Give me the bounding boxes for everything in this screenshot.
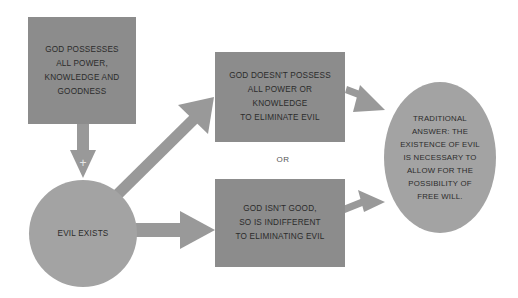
option-good-label: GOD ISN'T GOOD, SO IS INDIFFERENT TO ELI… [235, 202, 324, 244]
plus-icon: + [79, 156, 86, 170]
arrow-option-good-to-answer [343, 190, 385, 213]
arrow-evil-to-option-good [136, 211, 215, 249]
traditional-answer-node: TRADITIONAL ANSWER: THE EXISTENCE OF EVI… [384, 82, 496, 233]
or-connector-label: OR [268, 155, 298, 164]
traditional-answer-label: TRADITIONAL ANSWER: THE EXISTENCE OF EVI… [400, 112, 480, 203]
premise-label: GOD POSSESSES ALL POWER, KNOWLEDGE AND G… [45, 43, 120, 99]
arrow-option-power-to-answer [345, 85, 385, 112]
option-good-node: GOD ISN'T GOOD, SO IS INDIFFERENT TO ELI… [215, 179, 345, 267]
option-power-node: GOD DOESN'T POSSESS ALL POWER OR KNOWLED… [215, 52, 345, 142]
option-power-label: GOD DOESN'T POSSESS ALL POWER OR KNOWLED… [229, 69, 331, 125]
evil-exists-label: EVIL EXISTS [57, 227, 108, 241]
premise-node: GOD POSSESSES ALL POWER, KNOWLEDGE AND G… [28, 17, 136, 124]
evil-exists-node: EVIL EXISTS [29, 180, 137, 287]
